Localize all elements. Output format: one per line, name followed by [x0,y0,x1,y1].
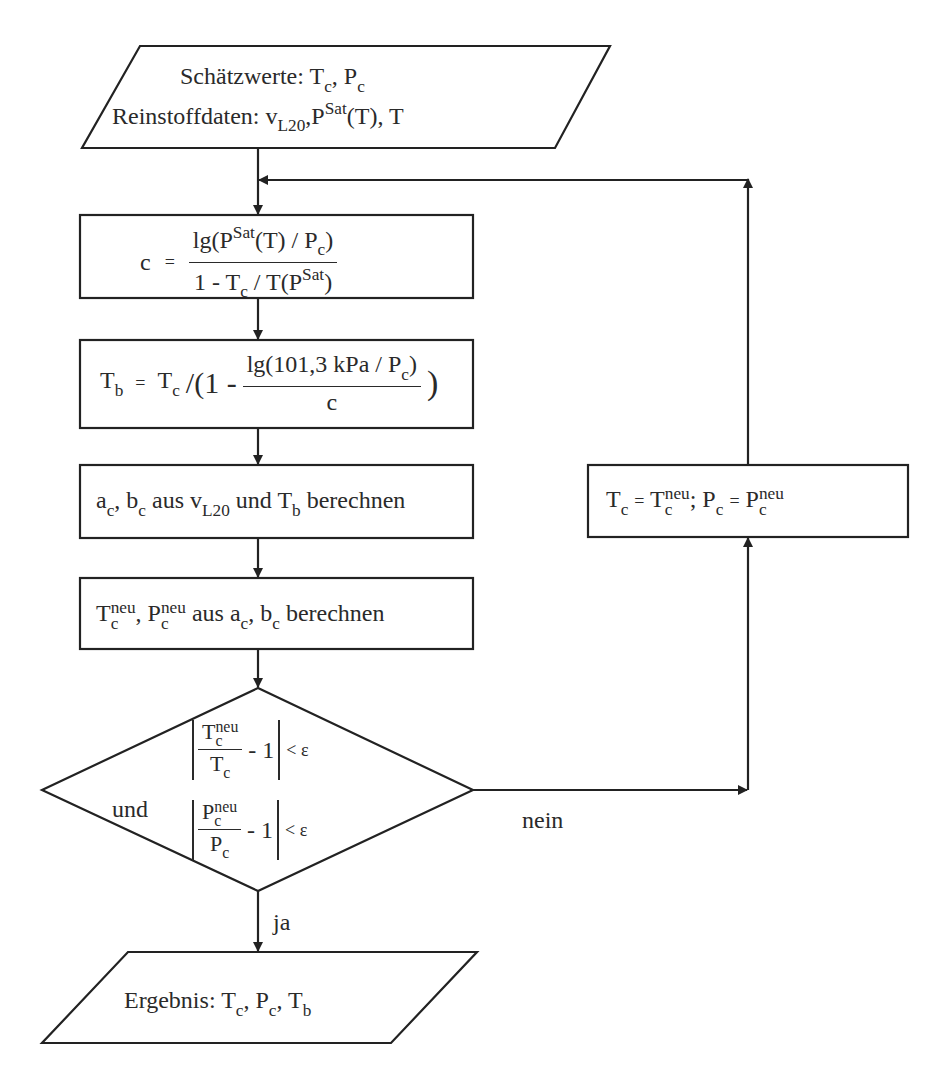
sub: c [272,614,280,633]
var-rest: (T), T [347,103,404,129]
equals: = [729,491,739,511]
t: P [148,600,161,626]
sub: c [401,365,409,384]
fraction-c: lg(PSat(T) / Pc) 1 - Tc / T(PSat) [189,224,337,300]
open: /(1 - [186,366,237,399]
fraction: Pneuc Pc [198,800,241,860]
sub-c: c [357,77,365,96]
abs-p: Pneuc Pc - 1 [192,800,279,860]
text-calc-new: Tneuc, Pneuc aus ac, bc berechnen [96,600,385,632]
t: lg(101,3 kPa / P [247,351,402,377]
sub: c [269,1001,277,1020]
t: b [260,600,272,626]
t: a [230,600,241,626]
fraction-tb: lg(101,3 kPa / Pc) c [243,352,421,414]
lt-eps: < ε [286,740,308,760]
t: P [702,486,715,512]
t: aus [146,487,190,513]
denominator: Tc [198,750,242,781]
t: P [202,799,214,824]
sep: ; [690,486,697,512]
t: (T) / P [255,227,318,253]
sup: Sat [302,265,324,284]
sub: b [292,501,301,520]
tc: Tc [157,367,179,393]
sub: b [303,1001,312,1020]
comma: , [243,987,249,1013]
text-output: Ergebnis: Tc, Pc, Tb [124,988,311,1019]
sub: b [115,380,124,399]
t: aus [186,600,230,626]
t: , [114,487,120,513]
t: T [221,987,236,1013]
sub: c [716,500,724,519]
sub: c [240,282,248,301]
denominator: 1 - Tc / T(PSat) [189,263,337,301]
sub: c [215,734,222,748]
var-t: T [310,63,325,89]
supsub: neuc [214,800,237,829]
t: ) [409,351,417,377]
equals: = [634,491,644,511]
label-reinstoffdaten: Reinstoffdaten: [112,103,260,129]
sup-sat: Sat [325,99,347,118]
t: berechnen [301,487,406,513]
sub: c [759,502,767,518]
t: T [157,367,172,393]
text-update: Tc = Tneuc; Pc = Pneuc [606,486,784,518]
fraction: Tneuc Tc [198,720,242,780]
t: T [650,486,665,512]
supsub: neuc [111,600,136,631]
input-line1: Schätzwerte: Tc, Pc [180,64,365,95]
t: T [210,751,223,776]
t: T [288,987,303,1013]
t: P [210,831,222,856]
t: T [96,600,111,626]
sub: c [621,500,629,519]
sub: c [222,844,229,861]
sub: c [138,501,146,520]
supsub: neuc [161,600,186,631]
t: P [255,987,268,1013]
var-p: P [311,103,324,129]
t: , [136,600,142,626]
comma: , [277,987,283,1013]
supsub: neuc [215,720,238,749]
numerator: Tneuc [198,720,242,750]
denominator: c [243,387,421,414]
var-p: P [344,63,357,89]
sub: c [665,502,673,518]
supsub: neuc [665,486,690,517]
lt-eps: < ε [285,820,307,840]
numerator: lg(PSat(T) / Pc) [189,224,337,263]
lhs-c: c [140,249,151,275]
supsub: neuc [759,486,784,517]
t: a [96,487,107,513]
t: und [230,487,278,513]
t: T [100,367,115,393]
t: b [126,487,138,513]
close: ) [427,364,438,401]
label-schaetzwerte: Schätzwerte: [180,63,304,89]
numerator: Pneuc [198,800,241,830]
sub: c [172,380,180,399]
t: T [277,487,292,513]
t: / T(P [248,268,302,294]
label-ergebnis: Ergebnis: [124,987,216,1013]
label-nein: nein [522,808,563,832]
t: v [190,487,202,513]
sub-c: c [324,77,332,96]
formula-c: c = lg(PSat(T) / Pc) 1 - Tc / T(PSat) [140,224,337,300]
abs-t: Tneuc Tc - 1 [192,720,280,780]
t: 1 - T [194,268,240,294]
comma: , [332,63,338,89]
t: berechnen [280,600,385,626]
var-v: v [266,103,278,129]
sub-l20: L20 [278,116,306,135]
condition-p: Pneuc Pc - 1 < ε [192,800,307,860]
t: lg(P [193,227,233,253]
t: ) [325,227,333,253]
flowchart-lines [0,0,943,1078]
t: ) [324,268,332,294]
t: , [248,600,254,626]
